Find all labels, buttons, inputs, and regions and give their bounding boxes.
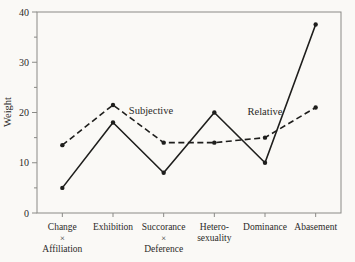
data-point-relative — [60, 186, 64, 190]
y-tick-label: 20 — [19, 107, 29, 118]
x-category-label: Exhibition — [93, 222, 133, 232]
data-point-relative — [263, 161, 267, 165]
data-point-subjective — [263, 135, 267, 139]
data-point-relative — [111, 120, 115, 124]
data-point-relative — [313, 22, 317, 26]
data-point-relative — [161, 171, 165, 175]
data-point-relative — [212, 110, 216, 114]
x-category-label: Change — [48, 222, 77, 232]
x-category-label: Dominance — [243, 222, 287, 232]
series-label-subjective: Subjective — [129, 105, 174, 116]
y-axis-title: Weight — [2, 97, 13, 127]
plot-box — [37, 12, 341, 213]
y-tick-label: 10 — [19, 157, 29, 168]
x-category-label: × — [60, 233, 65, 243]
data-point-subjective — [212, 140, 216, 144]
chart-canvas: 010203040Change×AffiliationExhibitionSuc… — [0, 0, 355, 262]
line-chart-figure: 010203040Change×AffiliationExhibitionSuc… — [0, 0, 355, 262]
data-point-subjective — [60, 143, 64, 147]
plot-layer: 010203040Change×AffiliationExhibitionSuc… — [19, 7, 341, 255]
x-category-label: Affiliation — [42, 244, 82, 254]
y-tick-label: 30 — [19, 57, 29, 68]
series-label-relative: Relative — [248, 106, 283, 117]
data-point-subjective — [161, 140, 165, 144]
y-tick-label: 0 — [24, 208, 29, 219]
y-tick-label: 40 — [19, 7, 29, 18]
x-category-label: Abasement — [294, 222, 337, 232]
x-category-label: Deference — [144, 244, 183, 254]
data-point-subjective — [111, 103, 115, 107]
x-category-label: sexuality — [197, 233, 232, 243]
data-point-subjective — [313, 105, 317, 109]
x-category-label: Succorance — [142, 222, 186, 232]
x-category-label: × — [161, 233, 166, 243]
x-category-label: Hetero- — [200, 222, 229, 232]
